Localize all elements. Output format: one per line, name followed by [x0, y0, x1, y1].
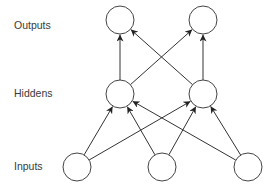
inputs-node-2 [148, 153, 176, 181]
outputs-layer-label: Outputs [14, 19, 51, 31]
inputs-node-3 [234, 153, 262, 181]
neural-network-diagram: Outputs Hiddens Inputs [0, 0, 277, 188]
hiddens-layer-label: Hiddens [14, 87, 53, 99]
outputs-node-2 [189, 6, 217, 34]
edge-inputs1-to-hiddens2 [89, 101, 190, 160]
layer-labels: Outputs Hiddens Inputs [14, 19, 53, 172]
outputs-node-1 [106, 6, 134, 34]
inputs-node-1 [63, 153, 91, 181]
edge-inputs2-to-hiddens1 [127, 107, 155, 155]
edge-inputs1-to-hiddens1 [84, 107, 113, 155]
inputs-layer-label: Inputs [14, 160, 43, 172]
neuron-nodes [63, 6, 262, 181]
hiddens-node-1 [106, 80, 134, 108]
edge-inputs3-to-hiddens1 [133, 101, 236, 160]
hiddens-node-2 [189, 80, 217, 108]
edge-inputs2-to-hiddens2 [169, 107, 196, 155]
